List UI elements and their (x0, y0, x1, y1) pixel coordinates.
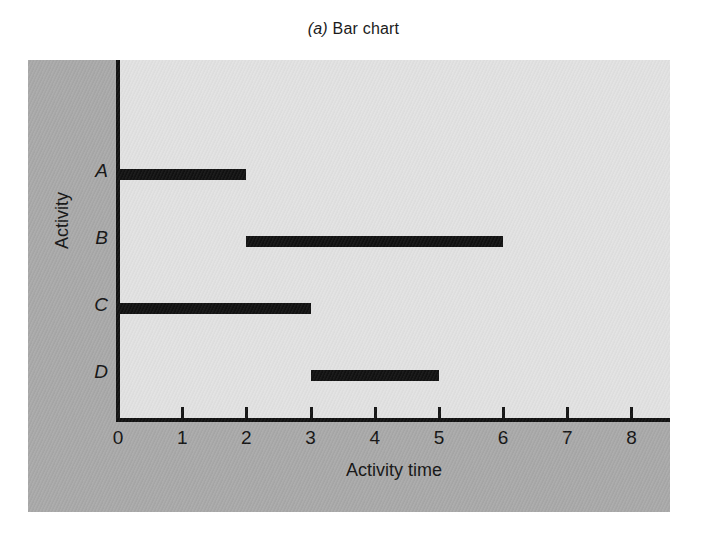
x-axis-tick (438, 407, 441, 418)
x-axis-tick-label: 7 (547, 427, 587, 449)
x-axis-tick-label: 2 (226, 427, 266, 449)
category-label-c: C (74, 294, 108, 316)
x-axis-tick-label: 4 (355, 427, 395, 449)
x-axis-tick-label: 0 (98, 427, 138, 449)
bar-a (118, 169, 246, 180)
figure-caption-prefix: (a) (308, 20, 328, 37)
x-axis-tick-label: 6 (483, 427, 523, 449)
x-axis-tick (374, 407, 377, 418)
figure-caption-text: Bar chart (333, 20, 400, 37)
x-axis-title: Activity time (118, 460, 670, 481)
bar-d (311, 370, 439, 381)
x-axis-tick-label: 1 (162, 427, 202, 449)
x-axis-tick (566, 407, 569, 418)
x-axis-line (116, 418, 670, 422)
figure-caption: (a) Bar chart (0, 20, 707, 38)
x-axis-tick (310, 407, 313, 418)
x-axis-tick (181, 407, 184, 418)
x-axis-tick (245, 407, 248, 418)
x-axis-tick (630, 407, 633, 418)
y-axis-line (116, 60, 120, 422)
y-axis-title: Activity (52, 151, 73, 291)
x-axis-tick (502, 407, 505, 418)
x-axis-tick-label: 3 (291, 427, 331, 449)
bar-chart-panel: 012345678 ABCD Activity time Activity (28, 60, 670, 512)
category-label-d: D (74, 361, 108, 383)
bar-b (246, 236, 503, 247)
category-label-a: A (74, 160, 108, 182)
category-label-b: B (74, 227, 108, 249)
bar-c (118, 303, 311, 314)
x-axis-tick-label: 8 (611, 427, 651, 449)
x-axis-tick-label: 5 (419, 427, 459, 449)
x-axis-tick (117, 407, 120, 418)
